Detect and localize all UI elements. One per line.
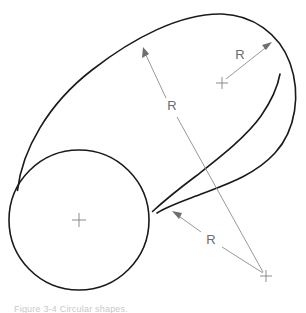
- main-radius-label: R: [167, 98, 176, 113]
- main-radius-arrowhead: [142, 47, 149, 58]
- outer-sweep-path: [18, 14, 296, 213]
- main-radius-dimension: R: [142, 47, 263, 272]
- figure-root: R R R Figure 3-4 Circular shapes.: [0, 0, 306, 313]
- lower-radius-arrowhead: [172, 211, 182, 219]
- lower-radius-label: R: [206, 232, 215, 247]
- upper-right-radius-label: R: [235, 47, 244, 62]
- main-radius-leader-lower: [177, 117, 263, 272]
- lower-radius-dimension: R: [172, 211, 263, 273]
- upper-right-radius-dimension: R: [226, 42, 272, 79]
- main-radius-leader-upper: [145, 53, 166, 98]
- inner-concave-path: [153, 74, 281, 212]
- tangent-arc-diagram: R R R: [0, 0, 306, 313]
- figure-caption: Figure 3-4 Circular shapes.: [14, 304, 128, 313]
- caption-clip: Figure 3-4 Circular shapes.: [0, 304, 306, 313]
- upper-right-radius-leader: [226, 45, 269, 79]
- small-circle-center-mark: [72, 213, 86, 227]
